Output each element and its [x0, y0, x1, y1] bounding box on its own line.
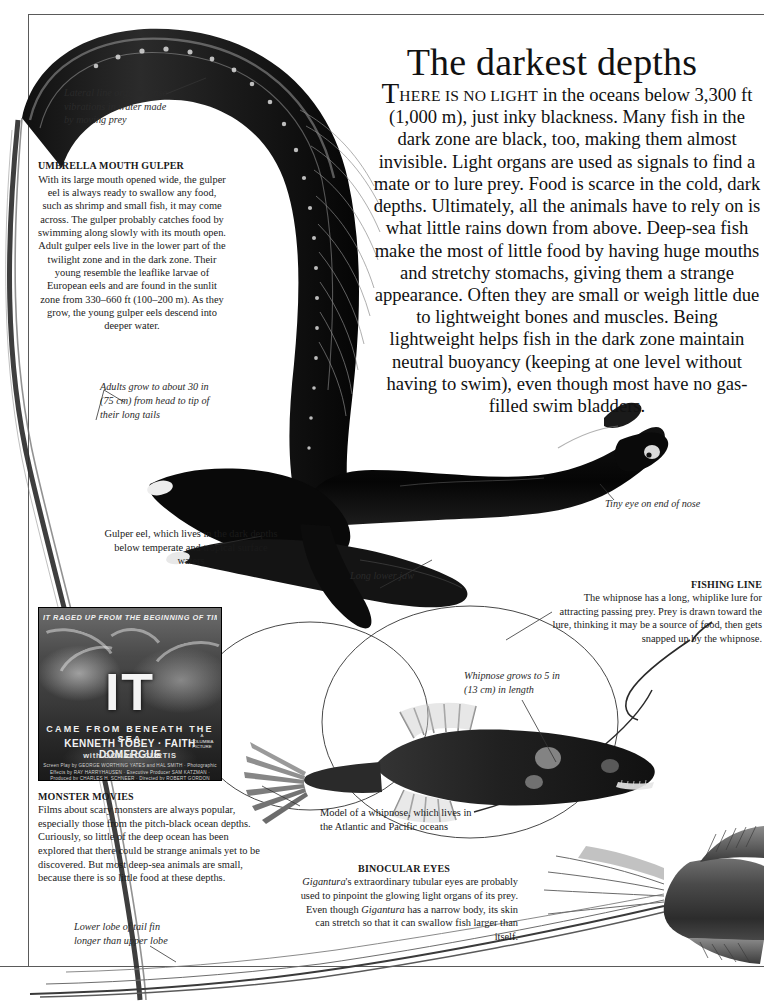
movie-poster-image: IT RAGED UP FROM THE BEGINNING OF TIME I…	[38, 607, 222, 781]
gulper-mouth	[300, 427, 665, 526]
page-rule-left	[28, 14, 29, 966]
gulper-fin-rays	[300, 110, 380, 416]
page-title: The darkest depths	[344, 43, 760, 83]
fishing-line-body: The whipnose has a long, whiplike lure f…	[553, 592, 763, 644]
intro-dropcap: T	[382, 77, 400, 109]
gigantura-pectoral-fin	[688, 938, 764, 964]
annotation-long-lower-jaw: Long lower jaw	[350, 569, 420, 583]
section-monster-movies: MONSTER MOVIES Films about scary monster…	[38, 790, 262, 885]
monster-movies-body: Films about scary monsters are always po…	[38, 804, 260, 883]
poster-title: IT	[39, 666, 221, 718]
umbrella-gulper-heading: UMBRELLA MOUTH GULPER	[38, 160, 226, 173]
annotation-lower-lobe: Lower lobe of tail fin longer than upper…	[74, 920, 184, 948]
caption-gulper-eel: Gulper eel, which lives in the dark dept…	[100, 527, 282, 568]
gigantura-fin-rays	[544, 856, 664, 914]
section-umbrella-mouth-gulper: UMBRELLA MOUTH GULPER With its large mou…	[38, 160, 226, 333]
annotation-whipnose-grows: Whipnose grows to 5 in (13 cm) in length	[464, 669, 564, 697]
poster-costars: with DONALD CURTIS	[39, 751, 221, 760]
binocular-eyes-genus-1: Gigantura	[302, 876, 345, 887]
fishing-line-heading: FISHING LINE	[548, 578, 762, 591]
annotation-tiny-eye: Tiny eye on end of nose	[605, 497, 705, 511]
annotation-lateral-line: Lateral line organs sense vibrations in …	[64, 86, 174, 127]
section-fishing-line: FISHING LINE The whipnose has a long, wh…	[548, 578, 762, 645]
annotation-adults-grow: Adults grow to about 30 in (75 cm) from …	[100, 380, 216, 421]
gigantura-dorsal-fin	[700, 826, 764, 862]
intro-body: in the oceans below 3,300 ft (1,000 m), …	[374, 84, 761, 416]
poster-credits: Screen Play by GEORGE WORTHING YATES and…	[39, 763, 221, 781]
binocular-eyes-heading: BINOCULAR EYES	[290, 862, 518, 875]
binocular-eyes-genus-2: Gigantura	[361, 904, 404, 915]
whipnose-dorsal-fin	[400, 704, 476, 738]
page-rule-top	[28, 14, 764, 15]
monster-movies-heading: MONSTER MOVIES	[38, 790, 262, 803]
poster-studio-badge: A COLUMBIA PICTURE	[189, 733, 215, 750]
whipnose-illustration	[244, 622, 712, 824]
page-rule-bottom	[0, 966, 764, 967]
poster-tagline: IT RAGED UP FROM THE BEGINNING OF TIME	[43, 613, 217, 622]
intro-smallcaps: HERE IS NO LIGHT	[399, 87, 538, 104]
section-binocular-eyes: BINOCULAR EYES Gigantura's extraordinary…	[290, 862, 518, 944]
umbrella-gulper-body: With its large mouth opened wide, the gu…	[38, 174, 226, 331]
caption-whipnose-model: Model of a whipnose, which lives in the …	[320, 806, 478, 834]
intro-paragraph: THERE IS NO LIGHT in the oceans below 3,…	[372, 84, 762, 417]
page-canvas: The darkest depths THERE IS NO LIGHT in …	[0, 0, 764, 1003]
